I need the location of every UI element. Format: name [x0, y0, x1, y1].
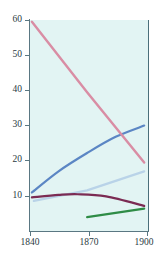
- line-chart: 60 50 40 30 20 10 1840 1870 1900: [0, 0, 162, 266]
- series-blue-rising-series: [32, 126, 144, 193]
- series-green-rising-series: [87, 209, 144, 217]
- series-dark-red-flat-series: [32, 194, 144, 206]
- series-lines: [0, 0, 162, 266]
- series-pink-declining-series: [32, 22, 144, 163]
